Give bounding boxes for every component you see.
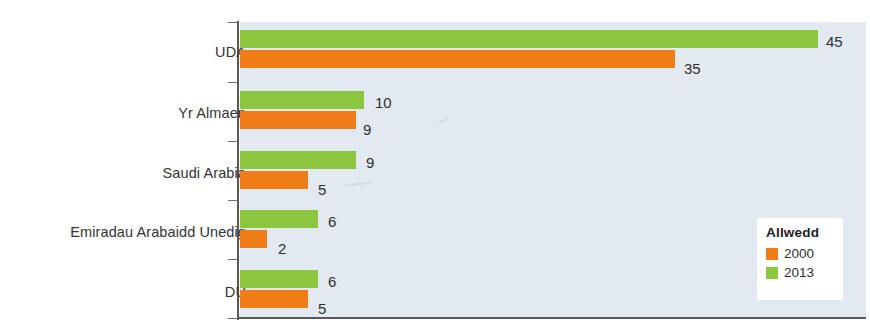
legend-swatch-2013-icon (766, 267, 778, 279)
y-axis-tick-3 (228, 200, 238, 201)
chart-screenshot: UDA 45 35 Yr Almaen 10 9 Saudi Arabia 9 … (0, 0, 870, 334)
bar-uda-2013 (240, 30, 818, 48)
cropped-title-remnant (86, 0, 386, 3)
x-axis-line (237, 317, 866, 319)
bar-value-yr-almaen-2000: 9 (363, 122, 371, 137)
y-axis-label-yr-almaen: Yr Almaen (178, 105, 246, 121)
bar-du-2013 (240, 270, 318, 288)
bar-du-2000 (240, 290, 308, 308)
legend-title: Allwedd (766, 225, 843, 240)
bar-value-du-2000: 5 (318, 301, 326, 316)
legend-item-2000: 2000 (766, 246, 843, 261)
bar-value-uda-2013: 45 (826, 34, 843, 49)
y-axis-tick-2 (228, 141, 238, 142)
bar-emiradau-arabaidd-unedig-2000 (240, 230, 267, 248)
legend-swatch-2000-icon (766, 248, 778, 260)
y-axis-tick-0 (228, 22, 238, 23)
legend: Allwedd 2000 2013 (757, 218, 843, 300)
legend-item-2013: 2013 (766, 265, 843, 280)
y-axis-tick-5 (228, 318, 238, 319)
legend-label-2013: 2013 (784, 265, 814, 280)
bar-value-yr-almaen-2013: 10 (375, 95, 392, 110)
bar-saudi-arabia-2000 (240, 171, 308, 189)
bar-yr-almaen-2013 (240, 91, 364, 109)
legend-label-2000: 2000 (784, 246, 814, 261)
bar-value-emiradau-arabaidd-unedig-2013: 6 (328, 214, 336, 229)
bar-value-emiradau-arabaidd-unedig-2000: 2 (278, 241, 286, 256)
y-axis-label-saudi-arabia: Saudi Arabia (163, 165, 246, 181)
bar-uda-2000 (240, 50, 675, 68)
bar-value-saudi-arabia-2000: 5 (318, 182, 326, 197)
bar-saudi-arabia-2013 (240, 151, 356, 169)
bar-value-saudi-arabia-2013: 9 (366, 155, 374, 170)
bar-value-uda-2000: 35 (684, 61, 701, 76)
bar-value-du-2013: 6 (328, 274, 336, 289)
bar-yr-almaen-2000 (240, 111, 356, 129)
y-axis-tick-4 (228, 259, 238, 260)
bar-emiradau-arabaidd-unedig-2013 (240, 210, 318, 228)
y-axis-tick-1 (228, 82, 238, 83)
y-axis-label-emiradau-arabaidd-unedig: Emiradau Arabaidd Unedig (70, 224, 246, 240)
